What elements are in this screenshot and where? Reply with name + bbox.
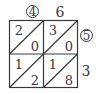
right-label-circled: 5 (80, 29, 93, 42)
cell-tens-digit: 3 (47, 24, 59, 37)
cell-tens-digit: 2 (13, 24, 25, 37)
cell-ones-digit: 0 (29, 40, 41, 53)
top-label-circled: 4 (26, 5, 39, 18)
cell-tens-digit: 1 (47, 58, 59, 71)
cell-ones-digit: 8 (63, 74, 75, 87)
cell-ones-digit: 0 (63, 40, 75, 53)
cell-ones-digit: 2 (29, 74, 41, 87)
cell-tens-digit: 1 (13, 58, 25, 71)
lattice-grid (0, 0, 101, 94)
right-label: 3 (80, 64, 92, 78)
top-label: 6 (54, 5, 66, 19)
